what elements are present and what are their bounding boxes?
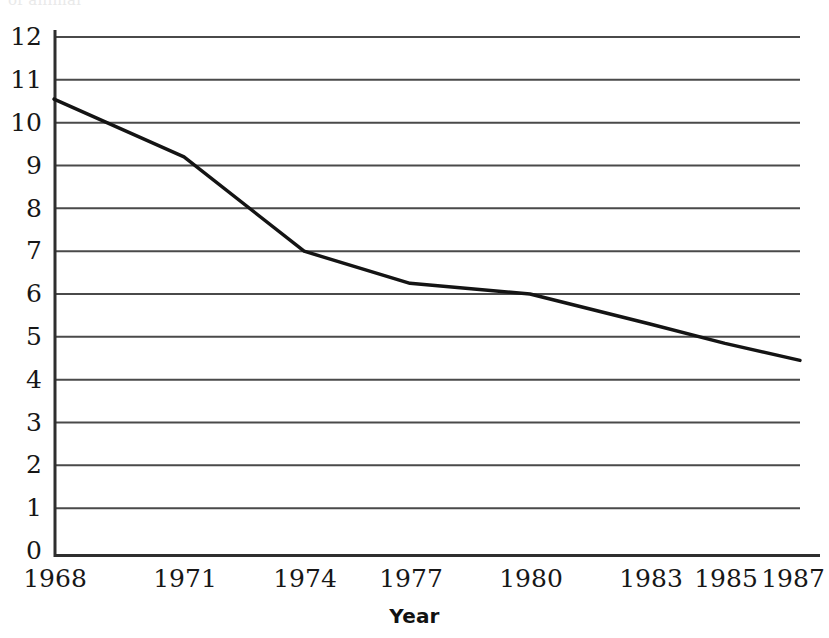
- ytick-label-0: 0: [2, 538, 42, 563]
- ytick-label-9: 9: [2, 153, 42, 178]
- xtick-label-1977: 1977: [366, 566, 456, 591]
- x-axis-title: Year: [0, 604, 829, 628]
- ytick-label-12: 12: [2, 24, 42, 49]
- ytick-label-1: 1: [2, 495, 42, 520]
- ytick-label-4: 4: [2, 367, 42, 392]
- ytick-label-6: 6: [2, 281, 42, 306]
- gridline-group: [54, 37, 800, 508]
- data-series-line: [54, 99, 800, 360]
- ytick-label-5: 5: [2, 324, 42, 349]
- xtick-label-1987: 1987: [757, 566, 829, 591]
- xtick-label-1980: 1980: [486, 566, 576, 591]
- line-chart-figure: 12 11 10 9 8 7 6 5 4 3 2 1 0 1968 1971 1…: [0, 0, 829, 638]
- xtick-label-1968: 1968: [10, 566, 100, 591]
- ytick-label-8: 8: [2, 196, 42, 221]
- xtick-label-1974: 1974: [260, 566, 350, 591]
- ytick-label-7: 7: [2, 238, 42, 263]
- ytick-label-10: 10: [2, 110, 42, 135]
- ytick-label-2: 2: [2, 452, 42, 477]
- ytick-label-3: 3: [2, 410, 42, 435]
- xtick-label-1971: 1971: [140, 566, 230, 591]
- ytick-label-11: 11: [2, 67, 42, 92]
- chart-plot-svg: [0, 0, 829, 638]
